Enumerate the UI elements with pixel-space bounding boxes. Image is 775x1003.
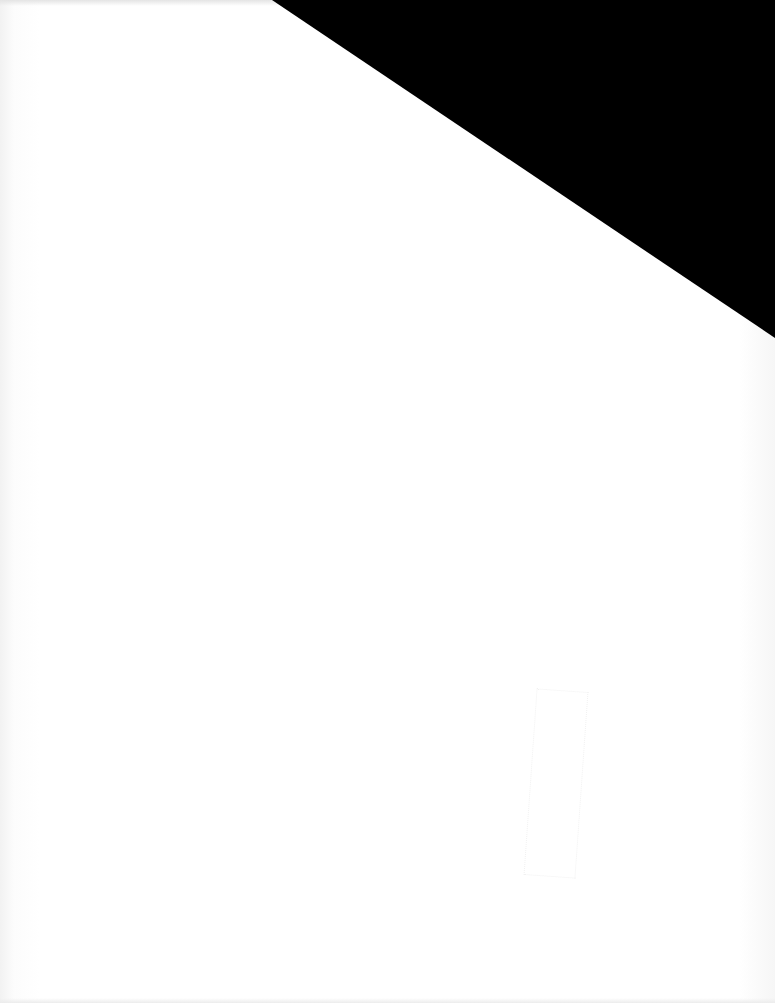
black-corner-occlusion [0,0,775,1003]
scanned-page [0,0,775,1003]
scan-bottom-edge [0,998,775,1003]
